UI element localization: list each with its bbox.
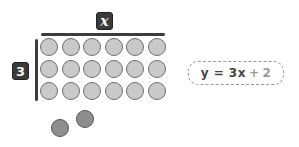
array-dot [62, 38, 80, 56]
array-dot [40, 82, 58, 100]
width-bar [41, 33, 165, 36]
equation-constant: 2 [263, 66, 272, 80]
array-dot [148, 82, 166, 100]
array-dot [83, 82, 101, 100]
array-dot [40, 38, 58, 56]
dot-array [40, 38, 166, 100]
extra-dot [51, 119, 69, 137]
array-dot [148, 60, 166, 78]
equation-plus: + [249, 66, 260, 80]
array-dot [126, 60, 144, 78]
three-label-badge: 3 [12, 62, 29, 80]
array-dot [40, 60, 58, 78]
array-dot [105, 38, 123, 56]
array-dot [83, 60, 101, 78]
array-dot [105, 60, 123, 78]
array-dot [83, 38, 101, 56]
array-dot [62, 60, 80, 78]
height-bar [35, 39, 38, 101]
equation-pill: y = 3x + 2 [188, 61, 284, 85]
array-dot [105, 82, 123, 100]
extra-dot [76, 110, 94, 128]
x-label-badge: x [96, 12, 113, 30]
array-dot [62, 82, 80, 100]
equation-lhs: y = 3x [201, 66, 246, 80]
array-dot [148, 38, 166, 56]
array-dot [126, 38, 144, 56]
array-dot [126, 82, 144, 100]
